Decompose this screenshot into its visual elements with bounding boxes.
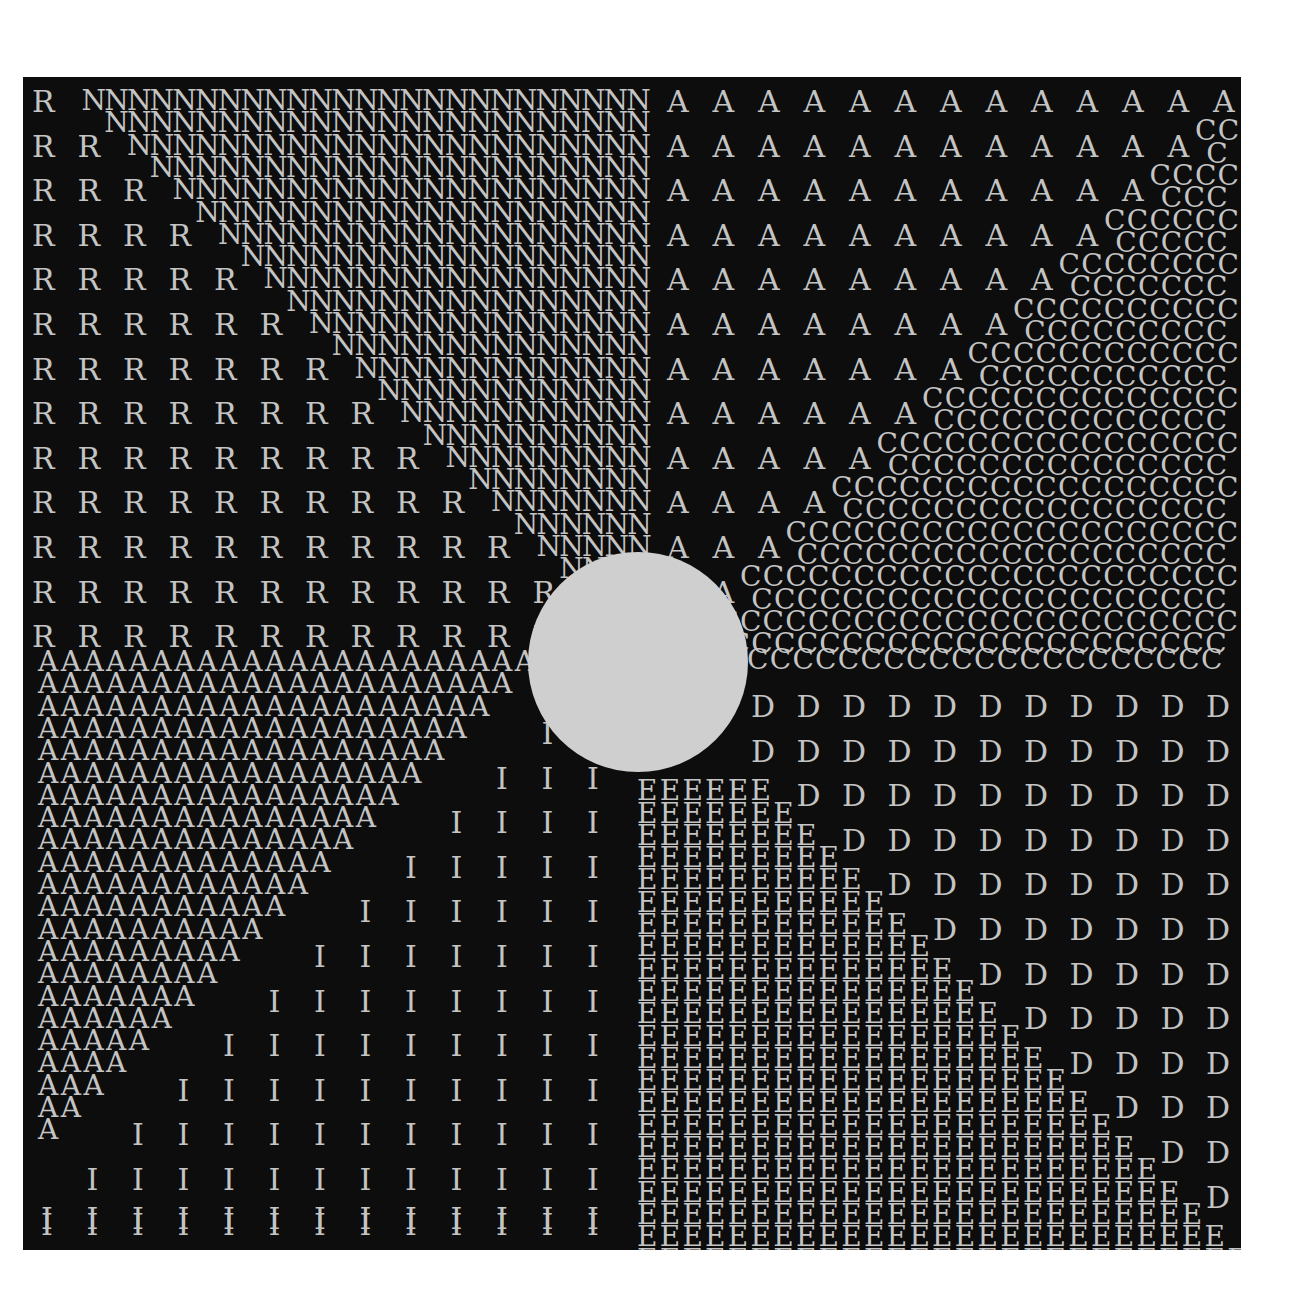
letter-a: A [849,355,871,385]
letter-a: A [1168,132,1190,162]
letter-a: A [713,176,735,206]
letter-d: D [1070,1004,1094,1034]
letter-a: A [940,355,962,385]
letter-a: A [667,132,689,162]
letter-i: I [178,1076,190,1106]
letter-a-dense: A [106,1049,126,1077]
letter-d: D [1206,692,1230,722]
letter-e: E [1091,1246,1111,1251]
letter-a: A [667,444,689,474]
letter-e: E [1205,1246,1225,1251]
letter-a-dense: A [174,983,194,1011]
letter-i: I [223,1076,235,1106]
letter-d: D [1206,826,1230,856]
letter-d: D [1024,915,1048,945]
letter-i: I [542,897,554,927]
letter-c: C [883,646,904,674]
letter-r: R [169,444,192,474]
letter-a-dense: A [288,871,308,899]
letter-c: C [770,646,791,674]
letter-i: I [496,1204,508,1234]
letter-a: A [986,132,1008,162]
letter-c: C [838,646,859,674]
letter-i: I [360,942,372,972]
letter-i: I [451,808,463,838]
letter-i: I [314,1204,326,1234]
letter-a-dense: A [197,960,217,988]
letter-d: D [888,870,912,900]
letter-c: C [1178,646,1199,674]
letter-d: D [979,826,1003,856]
letter-e: E [909,1246,929,1251]
letter-d: D [751,692,775,722]
letter-r: R [78,444,101,474]
letter-r: R [214,488,237,518]
letter-c: C [1019,646,1040,674]
letter-i: I [542,1031,554,1061]
letter-d: D [1070,692,1094,722]
letter-d: D [1161,915,1185,945]
letter-d: D [888,737,912,767]
letter-i: I [496,987,508,1017]
letter-d: D [1070,1049,1094,1079]
letter-i: I [269,1165,281,1195]
letter-r: R [169,310,192,340]
letter-i: I [360,1076,372,1106]
letter-d: D [842,781,866,811]
letter-r: R [305,355,328,385]
letter-a: A [940,310,962,340]
letter-i: I [405,897,417,927]
letter-a: A [804,355,826,385]
letter-d: D [797,737,821,767]
letter-d: D [979,737,1003,767]
letter-i: I [269,1204,281,1234]
letter-i: I [542,987,554,1017]
letter-c: C [1156,646,1177,674]
letter-i: I [587,1120,599,1150]
letter-d: D [1206,737,1230,767]
letter-a: A [1122,87,1144,117]
letter-n: N [309,310,334,338]
letter-d: D [1115,692,1139,722]
letter-a: A [986,265,1008,295]
center-disc [528,552,748,772]
letter-e: E [773,1246,793,1251]
letter-a: A [758,533,780,563]
letter-a: A [849,444,871,474]
letter-r: R [260,310,283,340]
letter-d: D [1024,826,1048,856]
letter-a: A [713,221,735,251]
letter-i: I [587,1076,599,1106]
letter-c: C [792,646,813,674]
letter-d: D [1024,737,1048,767]
letter-d: D [1161,826,1185,856]
letter-i: I [314,1165,326,1195]
letter-n: N [218,221,243,249]
letter-i: I [405,853,417,883]
letter-i: I [542,764,554,794]
letter-d: D [933,826,957,856]
letter-e: E [660,1246,680,1251]
letter-d: D [979,870,1003,900]
letter-e: E [819,1246,839,1251]
letter-r: R [396,533,419,563]
letter-r: R [487,533,510,563]
letter-a: A [713,310,735,340]
letter-d: D [1115,826,1139,856]
letter-a: A [849,221,871,251]
letter-c: C [1065,646,1086,674]
letter-r: R [32,444,55,474]
letter-a: A [895,265,917,295]
letter-d: D [933,781,957,811]
letter-a: A [895,355,917,385]
letter-r: R [214,444,237,474]
letter-i: I [269,1031,281,1061]
letter-i: I [178,1204,190,1234]
letter-e: E [1046,1246,1066,1251]
letter-r: R [442,578,465,608]
letter-a-dense: A [424,737,444,765]
letter-d: D [842,737,866,767]
letter-d: D [1024,960,1048,990]
letter-a: A [758,221,780,251]
letter-r: R [32,265,55,295]
